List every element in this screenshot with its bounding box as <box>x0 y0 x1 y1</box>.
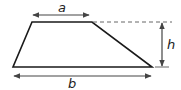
height-label: h <box>167 37 175 52</box>
top-base-label: a <box>58 0 66 15</box>
bottom-base-label: b <box>68 76 76 90</box>
trapezoid-figure: a h b <box>0 0 181 90</box>
trapezoid-diagram: a h b <box>0 0 181 90</box>
trapezoid-shape <box>13 22 152 67</box>
